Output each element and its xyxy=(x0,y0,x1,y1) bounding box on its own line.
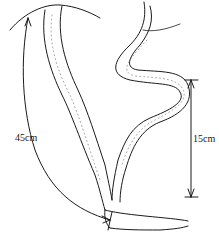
measurement-label-15cm: 15cm xyxy=(193,133,215,144)
measurement-label-45cm: 45cm xyxy=(15,132,37,143)
lower-limb xyxy=(105,210,188,230)
left-intestinal-limb xyxy=(44,6,112,210)
upper-s-loop xyxy=(112,2,190,202)
intestine-diagram xyxy=(0,0,219,240)
